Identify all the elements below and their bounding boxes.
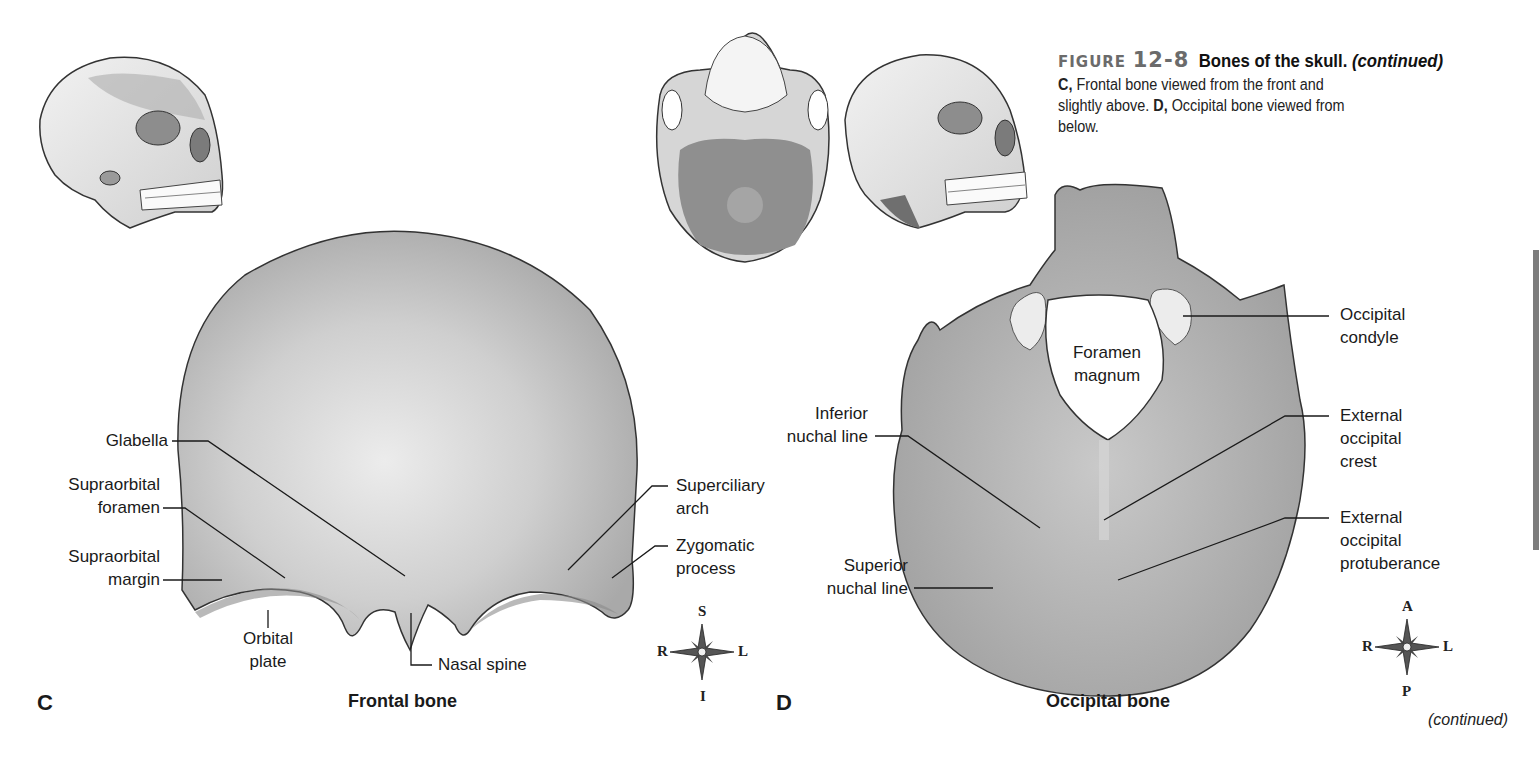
label-superciliary-arch-line2: arch	[676, 499, 709, 519]
figure-title: Bones of the skull. (continued)	[1194, 50, 1443, 72]
label-external-occipital-crest-line2: occipital	[1340, 429, 1401, 449]
label-external-occipital-crest-line3: crest	[1340, 452, 1377, 472]
figure-label: FIGURE 12-8	[1058, 52, 1189, 71]
label-inferior-nuchal-line-line1: Inferior	[815, 404, 868, 424]
label-supraorbital-margin-line2: margin	[108, 570, 160, 590]
label-glabella: Glabella	[106, 431, 168, 451]
label-superciliary-arch-line1: Superciliary	[676, 476, 765, 496]
label-orbital-plate-line1: Orbital	[237, 629, 299, 649]
label-external-occipital-protuberance-line2: occipital	[1340, 531, 1401, 551]
label-zygomatic-process-line2: process	[676, 559, 736, 579]
label-occipital-condyle-line2: condyle	[1340, 328, 1399, 348]
bone-title-occipital: Occipital bone	[1046, 691, 1170, 712]
label-foramen-magnum-line2: magnum	[1072, 366, 1142, 386]
compass-occipital-left: R	[1362, 638, 1373, 655]
skull-lateral-view-right	[845, 55, 1027, 228]
label-inferior-nuchal-line-line2: nuchal line	[787, 427, 868, 447]
compass-rose-occipital	[1375, 619, 1439, 675]
compass-frontal-left: R	[657, 643, 668, 660]
label-nasal-spine: Nasal spine	[438, 655, 527, 675]
continued-note: (continued)	[1428, 711, 1508, 729]
frontal-bone-illustration	[178, 231, 637, 650]
label-supraorbital-foramen-line2: foramen	[98, 498, 160, 518]
compass-rose-frontal	[670, 624, 734, 680]
compass-frontal-top: S	[698, 603, 706, 620]
compass-occipital-bottom: P	[1402, 683, 1411, 700]
figure-caption: FIGURE 12-8 Bones of the skull. (continu…	[1058, 48, 1538, 137]
label-external-occipital-crest-line1: External	[1340, 406, 1402, 426]
label-occipital-condyle-line1: Occipital	[1340, 305, 1405, 325]
compass-frontal-right: L	[738, 643, 748, 660]
label-foramen-magnum-line1: Foramen	[1072, 343, 1142, 363]
bone-title-frontal: Frontal bone	[348, 691, 457, 712]
compass-occipital-top: A	[1402, 598, 1413, 615]
label-orbital-plate-line2: plate	[237, 652, 299, 672]
compass-frontal-bottom: I	[700, 688, 706, 705]
skull-lateral-view-left	[40, 57, 223, 228]
compass-occipital-right: L	[1443, 638, 1453, 655]
label-superior-nuchal-line-line1: Superior	[844, 556, 908, 576]
label-supraorbital-foramen-line1: Supraorbital	[68, 475, 160, 495]
page-edge-tab	[1533, 250, 1539, 550]
figure-description: C, Frontal bone viewed from the front an…	[1058, 74, 1355, 137]
panel-letter-c: C	[37, 690, 53, 716]
label-external-occipital-protuberance-line1: External	[1340, 508, 1402, 528]
label-zygomatic-process-line1: Zygomatic	[676, 536, 754, 556]
label-external-occipital-protuberance-line3: protuberance	[1340, 554, 1440, 574]
panel-letter-d: D	[776, 690, 792, 716]
label-supraorbital-margin-line1: Supraorbital	[68, 547, 160, 567]
skull-inferior-view	[657, 33, 829, 262]
label-superior-nuchal-line-line2: nuchal line	[827, 579, 908, 599]
